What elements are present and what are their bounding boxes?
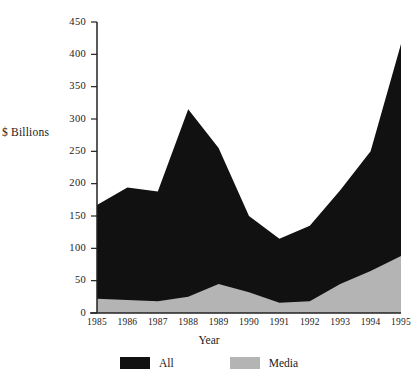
y-tick-label: 200	[52, 178, 86, 188]
y-axis-tick-labels: 050100150200250300350400450	[52, 0, 86, 389]
y-tick-label: 450	[52, 17, 86, 27]
x-axis-title: Year	[0, 334, 418, 346]
legend-item: Media	[230, 357, 298, 369]
legend-swatch-icon	[120, 357, 150, 369]
chart-legend: AllMedia	[0, 357, 418, 369]
y-tick-label: 150	[52, 211, 86, 221]
legend-item: All	[120, 357, 174, 369]
x-tick-label: 1995	[381, 317, 418, 327]
y-tick-label: 50	[52, 275, 86, 285]
legend-label: Media	[269, 357, 298, 369]
y-tick-label: 0	[52, 308, 86, 318]
legend-label: All	[159, 357, 174, 369]
y-tick-label: 100	[52, 243, 86, 253]
legend-swatch-icon	[230, 357, 260, 369]
y-tick-label: 300	[52, 114, 86, 124]
area-chart: $ Billions 050100150200250300350400450 1…	[0, 0, 418, 389]
y-axis-title: $ Billions	[2, 126, 49, 138]
y-tick-label: 400	[52, 49, 86, 59]
area-series-all	[97, 44, 401, 313]
y-tick-label: 250	[52, 146, 86, 156]
y-tick-label: 350	[52, 81, 86, 91]
